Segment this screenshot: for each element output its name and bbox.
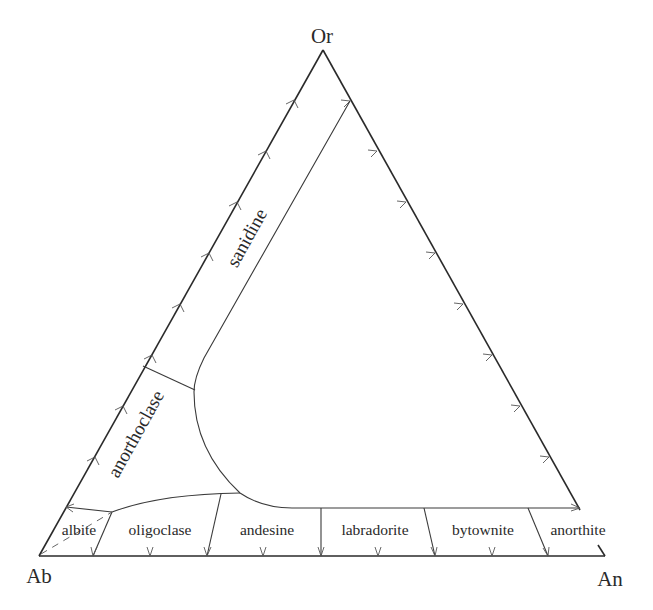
field-label-anorthoclase: anorthoclase xyxy=(103,387,168,481)
sanidine-anorthoclase-divider xyxy=(143,366,195,390)
field-label-oligoclase: oligoclase xyxy=(129,521,192,538)
ternary-feldspar-diagram: Or Ab An sanidine anorthoclase albite ol… xyxy=(0,0,653,610)
field-label-sanidine: sanidine xyxy=(222,205,271,271)
right-edge-ticks xyxy=(341,100,549,463)
vertex-label-ab: Ab xyxy=(26,564,52,588)
field-label-labradorite: labradorite xyxy=(341,521,408,538)
vertex-label-or: Or xyxy=(311,24,333,48)
right-edge-or-an xyxy=(323,50,580,510)
triangle-frame xyxy=(39,50,605,556)
left-edge-or-ab xyxy=(39,50,323,556)
field-label-andesine: andesine xyxy=(240,521,294,538)
albite-top-divider xyxy=(66,507,112,512)
field-label-albite: albite xyxy=(62,521,97,538)
vertex-label-an: An xyxy=(597,567,623,591)
alkali-feldspar-boundary-curve xyxy=(194,101,580,508)
right-edge-stub xyxy=(598,545,605,556)
field-label-anorthite: anorthite xyxy=(550,521,605,538)
field-label-bytownite: bytownite xyxy=(452,521,514,538)
